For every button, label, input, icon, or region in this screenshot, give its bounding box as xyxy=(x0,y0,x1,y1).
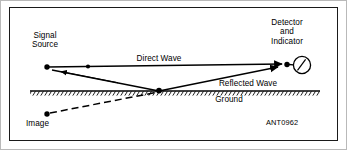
indicator-meter-icon xyxy=(289,56,311,73)
label-ground: Ground xyxy=(206,95,252,104)
label-image: Image xyxy=(26,119,62,128)
label-direct-wave: Direct Wave xyxy=(124,54,194,63)
signal-source-point xyxy=(44,64,49,69)
ground-hatching xyxy=(30,91,320,95)
incident-wave-ray xyxy=(52,70,159,91)
label-signal-source: Signal Source xyxy=(19,31,71,50)
detector-terminal-point xyxy=(284,62,289,67)
label-reflected-wave: Reflected Wave xyxy=(209,79,287,88)
image-point-marker xyxy=(44,111,49,116)
figure-id-code: ANT0962 xyxy=(266,118,318,127)
figure-root: Signal Source Detector and Indicator Dir… xyxy=(0,0,347,150)
direct-wave-ray xyxy=(47,64,282,69)
label-detector-and-indicator: Detector and Indicator xyxy=(256,18,318,46)
reflection-point-marker xyxy=(156,88,162,94)
